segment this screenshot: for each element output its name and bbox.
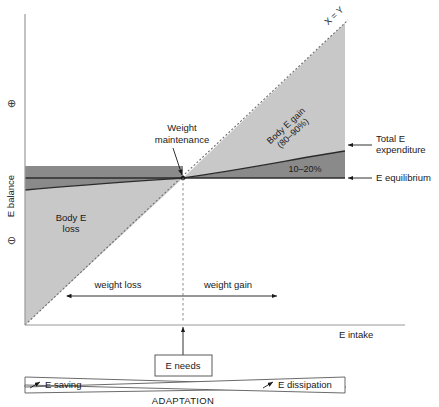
weight-gain-label: weight gain: [203, 279, 252, 290]
y-axis-positive-symbol: ⊕: [7, 97, 16, 109]
adaptation-caption: ADAPTATION: [152, 395, 214, 406]
total-e-expenditure-label-line2: expenditure: [376, 144, 426, 155]
percent-band-label: 10–20%: [288, 164, 321, 174]
e-needs-label: E needs: [166, 360, 201, 371]
e-saving-label: E saving: [45, 379, 81, 390]
y-axis-negative-symbol: ⊖: [7, 234, 16, 246]
weight-maintenance-label-line1: Weight: [167, 122, 197, 133]
e-needs-group: E needs: [155, 327, 212, 376]
total-e-expenditure-callout: Total E expenditure: [348, 133, 426, 155]
weight-loss-label: weight loss: [94, 279, 142, 290]
e-equilibrium-label: E equilibrium: [376, 172, 431, 183]
x-axis-label: E intake: [339, 329, 373, 340]
total-e-expenditure-label-line1: Total E: [376, 133, 405, 144]
identity-line-label: X = Y: [322, 5, 345, 27]
body-e-loss-label-line1: Body E: [56, 212, 87, 223]
e-dissipation-label: E dissipation: [278, 379, 332, 390]
energy-balance-diagram: ⊕ ⊖ E balance E intake X = Y Body E gain…: [0, 0, 439, 407]
diagram-canvas: ⊕ ⊖ E balance E intake X = Y Body E gain…: [0, 0, 439, 407]
weight-maintenance-label-line2: maintenance: [155, 134, 209, 145]
weight-direction-arrow-group: weight loss weight gain: [67, 279, 277, 296]
y-axis-label: E balance: [5, 175, 16, 217]
adaptation-group: E saving E dissipation ADAPTATION: [25, 377, 345, 406]
body-e-loss-label-line2: loss: [63, 223, 80, 234]
e-equilibrium-callout: E equilibrium: [348, 172, 431, 183]
